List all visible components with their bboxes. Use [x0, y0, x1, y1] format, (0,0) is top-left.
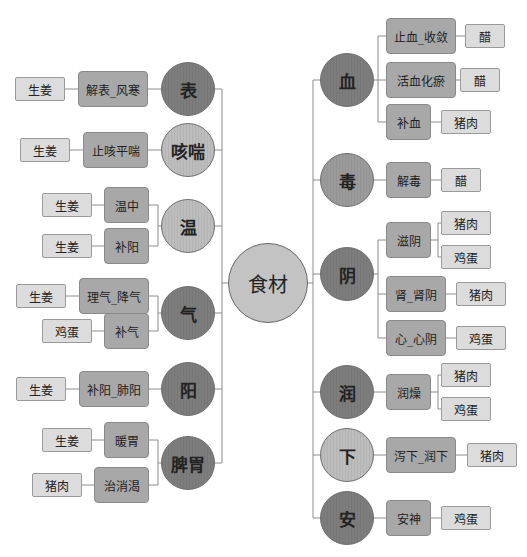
right-5-item-0-food-0-label: 鸡蛋: [454, 510, 478, 527]
right-0-item-1-food-0: 醋: [460, 68, 500, 92]
branch-5-left-label: 脾胃: [171, 451, 205, 476]
right-0-item-2-food-0-label: 猪肉: [454, 114, 478, 131]
left-2-item-1-food-0-label: 生姜: [55, 238, 79, 255]
right-3-item-0-food-0-label: 猪肉: [454, 367, 478, 384]
left-2-item-0-food-0: 生姜: [42, 193, 92, 217]
right-4-item-0-food-0: 猪肉: [467, 443, 517, 467]
right-1-item-0-food-0: 醋: [441, 168, 481, 192]
left-5-item-0-label: 暖胃: [115, 432, 139, 449]
left-3-item-0-label: 理气_降气: [87, 288, 141, 305]
right-3-item-0: 润燥: [386, 374, 431, 410]
branch-2-right: 阴: [320, 247, 374, 301]
left-0-item-0-food-0-label: 生姜: [28, 81, 52, 98]
right-3-item-0-food-1: 鸡蛋: [441, 397, 491, 421]
right-4-item-0: 泻下_润下: [386, 437, 456, 473]
right-2-item-0-food-1: 鸡蛋: [441, 245, 491, 269]
root-label: 食材: [248, 269, 288, 298]
right-2-item-2-food-0-label: 鸡蛋: [469, 330, 493, 347]
left-3-item-1-food-0: 鸡蛋: [42, 319, 92, 343]
right-2-item-0-food-0: 猪肉: [441, 211, 491, 235]
branch-5-right: 安: [320, 491, 374, 545]
branch-3-left: 气: [161, 286, 215, 340]
left-3-item-1-label: 补气: [115, 323, 139, 340]
right-0-item-0: 止血_收敛: [386, 18, 456, 54]
left-3-item-1-food-0-label: 鸡蛋: [55, 323, 79, 340]
right-0-item-1: 活血化瘀: [386, 62, 456, 98]
right-1-item-0: 解毒: [386, 162, 431, 198]
right-4-item-0-food-0-label: 猪肉: [480, 447, 504, 464]
branch-5-right-label: 安: [339, 506, 356, 531]
left-3-item-0-food-0-label: 生姜: [29, 288, 53, 305]
branch-2-left-label: 温: [180, 214, 197, 239]
branch-1-right: 毒: [320, 153, 374, 207]
branch-1-left: 咳喘: [161, 123, 215, 177]
right-0-item-1-label: 活血化瘀: [397, 72, 445, 89]
right-0-item-2: 补血: [386, 104, 431, 140]
left-2-item-0-label: 温中: [115, 197, 139, 214]
mind-map: 食材 表解表_风寒生姜咳喘止咳平喘生姜温温中生姜补阳生姜气理气_降气生姜补气鸡蛋…: [0, 0, 527, 557]
right-2-item-1: 肾_肾阴: [386, 276, 446, 312]
right-0-item-2-label: 补血: [397, 114, 421, 131]
right-5-item-0: 安神: [386, 500, 431, 536]
left-3-item-0: 理气_降气: [79, 278, 149, 314]
branch-3-right-label: 润: [339, 380, 356, 405]
left-4-item-0-label: 补阳_肺阳: [87, 381, 141, 398]
left-2-item-1-food-0: 生姜: [42, 234, 92, 258]
root-node: 食材: [228, 243, 308, 323]
left-2-item-1: 补阳: [104, 228, 149, 264]
left-0-item-0-food-0: 生姜: [15, 77, 65, 101]
branch-5-left: 脾胃: [161, 436, 215, 490]
right-2-item-1-food-0-label: 猪肉: [469, 286, 493, 303]
left-1-item-0-food-0: 生姜: [20, 138, 70, 162]
right-2-item-2: 心_心阴: [386, 320, 446, 356]
left-5-item-1-label: 治消渴: [104, 477, 140, 494]
branch-1-left-label: 咳喘: [171, 138, 205, 163]
left-1-item-0-food-0-label: 生姜: [33, 142, 57, 159]
right-2-item-0: 滋阴: [386, 222, 431, 258]
branch-3-left-label: 气: [180, 301, 197, 326]
right-2-item-0-food-1-label: 鸡蛋: [454, 249, 478, 266]
branch-0-left: 表: [161, 62, 215, 116]
right-0-item-0-food-0: 醋: [465, 24, 505, 48]
branch-4-left: 阳: [161, 362, 215, 416]
branch-1-right-label: 毒: [339, 168, 356, 193]
branch-2-left: 温: [161, 199, 215, 253]
left-2-item-0: 温中: [104, 187, 149, 223]
branch-0-right-label: 血: [339, 68, 356, 93]
left-3-item-0-food-0: 生姜: [16, 284, 66, 308]
right-2-item-0-label: 滋阴: [397, 232, 421, 249]
right-1-item-0-food-0-label: 醋: [455, 172, 467, 189]
right-3-item-0-label: 润燥: [397, 384, 421, 401]
branch-4-left-label: 阳: [180, 377, 197, 402]
left-5-item-1-food-0: 猪肉: [32, 473, 82, 497]
left-2-item-1-label: 补阳: [115, 238, 139, 255]
right-0-item-0-food-0-label: 醋: [479, 28, 491, 45]
right-1-item-0-label: 解毒: [397, 172, 421, 189]
left-1-item-0-label: 止咳平喘: [92, 142, 140, 159]
branch-3-right: 润: [320, 365, 374, 419]
left-4-item-0-food-0-label: 生姜: [29, 381, 53, 398]
left-5-item-0: 暖胃: [104, 422, 149, 458]
branch-4-right: 下: [320, 428, 374, 482]
branch-4-right-label: 下: [339, 443, 356, 468]
right-0-item-1-food-0-label: 醋: [474, 72, 486, 89]
left-0-item-0-label: 解表_风寒: [86, 81, 140, 98]
left-2-item-0-food-0-label: 生姜: [55, 197, 79, 214]
branch-0-right: 血: [320, 53, 374, 107]
branch-2-right-label: 阴: [339, 262, 356, 287]
right-5-item-0-label: 安神: [397, 510, 421, 527]
right-2-item-1-food-0: 猪肉: [456, 282, 506, 306]
left-5-item-1-food-0-label: 猪肉: [45, 477, 69, 494]
left-4-item-0-food-0: 生姜: [16, 377, 66, 401]
left-3-item-1: 补气: [104, 313, 149, 349]
left-0-item-0: 解表_风寒: [78, 71, 148, 107]
right-2-item-2-label: 心_心阴: [395, 330, 437, 347]
right-0-item-2-food-0: 猪肉: [441, 110, 491, 134]
left-4-item-0: 补阳_肺阳: [79, 371, 149, 407]
left-5-item-1: 治消渴: [94, 467, 149, 503]
right-2-item-2-food-0: 鸡蛋: [456, 326, 506, 350]
right-3-item-0-food-1-label: 鸡蛋: [454, 401, 478, 418]
right-3-item-0-food-0: 猪肉: [441, 363, 491, 387]
left-5-item-0-food-0-label: 生姜: [55, 432, 79, 449]
left-5-item-0-food-0: 生姜: [42, 428, 92, 452]
